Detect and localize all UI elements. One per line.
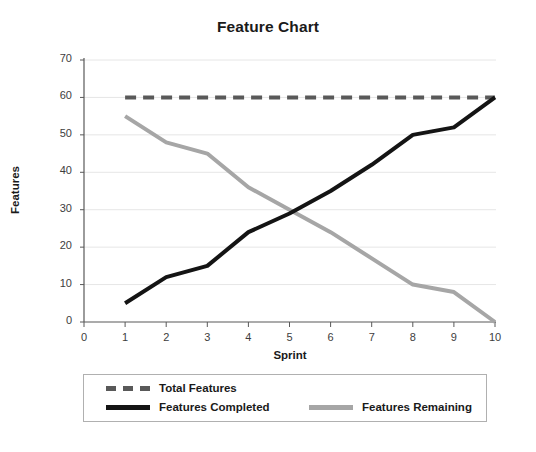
legend-item-total-features: Total Features <box>106 382 237 394</box>
y-tick-label: 20 <box>42 239 72 251</box>
legend-label-features-completed: Features Completed <box>159 401 270 413</box>
y-tick-label: 60 <box>42 89 72 101</box>
x-tick-marks <box>84 322 495 327</box>
y-axis-label: Features <box>9 150 21 230</box>
y-tick-label: 0 <box>42 314 72 326</box>
feature-chart: Feature Chart Features Sprint 0102030405… <box>0 0 536 452</box>
x-tick-label: 10 <box>483 331 507 343</box>
x-tick-label: 0 <box>72 331 96 343</box>
x-tick-label: 3 <box>195 331 219 343</box>
x-tick-label: 5 <box>278 331 302 343</box>
series-line-features-remaining <box>125 116 495 322</box>
x-tick-label: 9 <box>442 331 466 343</box>
x-tick-label: 6 <box>319 331 343 343</box>
y-tick-label: 10 <box>42 277 72 289</box>
legend-swatch-solid-dark-icon <box>106 405 150 410</box>
x-axis-label: Sprint <box>84 349 496 361</box>
legend-swatch-solid-light-icon <box>309 405 353 410</box>
legend-swatch-dashed-icon <box>106 386 150 391</box>
y-tick-label: 50 <box>42 127 72 139</box>
legend-label-features-remaining: Features Remaining <box>362 401 472 413</box>
y-tick-label: 40 <box>42 164 72 176</box>
x-tick-label: 7 <box>360 331 384 343</box>
legend-item-features-completed: Features Completed <box>106 401 270 413</box>
y-tick-label: 70 <box>42 52 72 64</box>
legend-item-features-remaining: Features Remaining <box>309 401 472 413</box>
legend-label-total-features: Total Features <box>159 382 237 394</box>
x-tick-label: 4 <box>236 331 260 343</box>
gridlines <box>84 60 496 285</box>
y-tick-label: 30 <box>42 202 72 214</box>
x-tick-label: 2 <box>154 331 178 343</box>
series-line-features-completed <box>125 97 495 303</box>
chart-legend: Total Features Features Completed Featur… <box>83 374 487 422</box>
x-tick-label: 8 <box>401 331 425 343</box>
x-tick-label: 1 <box>113 331 137 343</box>
